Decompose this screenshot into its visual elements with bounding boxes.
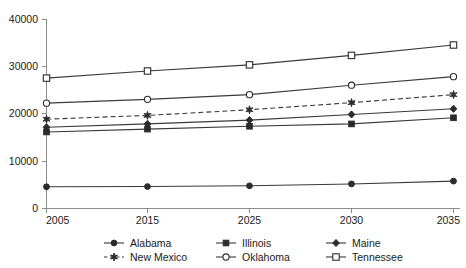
data-point-illinois-2030 [349, 121, 355, 127]
data-point-maine-2030 [348, 111, 355, 118]
data-point-illinois-2035 [451, 115, 457, 121]
y-axis-label-20000: 20000 [9, 107, 38, 119]
series-oklahoma [43, 74, 456, 107]
data-point-alabama-2025 [247, 183, 253, 189]
legend-label-alabama: Alabama [130, 237, 172, 249]
series-tennessee [43, 42, 456, 81]
x-axis-label-2030: 2030 [340, 214, 364, 226]
chart-legend: AlabamaIllinoisMaineNew MexicoOklahomaTe… [104, 237, 403, 263]
x-axis-label-2035: 2035 [437, 214, 461, 226]
legend-item-oklahoma[interactable]: Oklahoma [216, 251, 290, 263]
legend-item-alabama[interactable]: Alabama [104, 237, 172, 249]
data-point-tennessee-2035 [450, 42, 456, 48]
legend-marker-oklahoma [223, 254, 229, 260]
data-point-oklahoma-2035 [450, 74, 456, 80]
data-point-oklahoma-2015 [144, 96, 150, 102]
legend-item-tennessee[interactable]: Tennessee [326, 251, 403, 263]
data-point-oklahoma-2025 [246, 92, 252, 98]
legend-item-new-mexico[interactable]: New Mexico [104, 251, 187, 263]
y-axis-label-10000: 10000 [9, 155, 38, 167]
legend-label-illinois: Illinois [242, 237, 271, 249]
data-point-alabama-2035 [451, 178, 457, 184]
series-alabama [44, 178, 457, 189]
legend-item-maine[interactable]: Maine [326, 237, 381, 249]
y-axis-label-30000: 30000 [9, 60, 38, 72]
line-chart: 40000 30000 20000 10000 0 2005 2015 2025… [0, 0, 466, 268]
data-point-alabama-2005 [44, 184, 50, 190]
data-point-maine-2025 [246, 117, 253, 124]
legend-marker-illinois [223, 240, 229, 246]
legend-marker-maine [333, 239, 340, 246]
x-axis-label-2015: 2015 [136, 214, 160, 226]
legend-label-tennessee: Tennessee [352, 251, 403, 263]
series-layer [43, 42, 457, 190]
data-point-tennessee-2005 [43, 75, 49, 81]
data-point-tennessee-2030 [348, 52, 354, 58]
data-point-alabama-2015 [145, 184, 151, 190]
data-point-new-mexico-2035 [450, 91, 457, 99]
data-point-oklahoma-2030 [348, 82, 354, 88]
y-axis-label-0: 0 [32, 202, 38, 214]
data-point-oklahoma-2005 [43, 100, 49, 106]
legend-item-illinois[interactable]: Illinois [216, 237, 271, 249]
chart-canvas: 40000 30000 20000 10000 0 2005 2015 2025… [0, 0, 466, 268]
legend-marker-tennessee [333, 254, 339, 260]
legend-label-oklahoma: Oklahoma [242, 251, 290, 263]
legend-marker-alabama [111, 240, 117, 246]
x-axis-label-2005: 2005 [46, 214, 70, 226]
x-axis-label-2025: 2025 [238, 214, 262, 226]
legend-label-maine: Maine [352, 237, 381, 249]
data-point-alabama-2030 [349, 181, 355, 187]
legend-label-new-mexico: New Mexico [130, 251, 187, 263]
y-axis-label-40000: 40000 [9, 13, 38, 25]
data-point-maine-2035 [450, 105, 457, 112]
data-point-tennessee-2015 [144, 68, 150, 74]
data-point-tennessee-2025 [246, 62, 252, 68]
